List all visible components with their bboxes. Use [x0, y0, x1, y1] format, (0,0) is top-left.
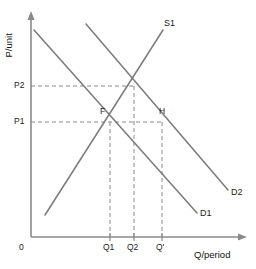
x-tick-label-q2: Q2: [127, 243, 138, 252]
supply-demand-figure: P/unit Q/period 0 P2 P1 Q1 Q2 Q' S1 D1 D…: [0, 0, 256, 269]
x-axis-label: Q/period: [194, 250, 230, 260]
curve-d2: [86, 24, 228, 190]
curve-label-d1: D1: [200, 209, 212, 218]
y-tick-label-p1: P1: [14, 117, 24, 126]
axes-group: [27, 11, 247, 241]
point-label-h: H: [159, 107, 165, 116]
y-axis-arrowhead: [27, 11, 34, 20]
y-axis-label: P/unit: [4, 33, 14, 57]
x-axis-arrowhead: [238, 233, 247, 240]
point-label-f: F: [100, 107, 105, 116]
origin-label: 0: [19, 243, 24, 252]
y-tick-label-p2: P2: [14, 81, 24, 90]
curve-label-s1: S1: [164, 19, 175, 28]
curves-group: [34, 24, 228, 215]
curve-label-d2: D2: [231, 188, 243, 197]
x-tick-label-q1: Q1: [103, 243, 114, 252]
guide-lines-group: [31, 86, 164, 237]
x-tick-label-qprime: Q': [156, 243, 164, 252]
diagram-canvas: [0, 0, 256, 269]
